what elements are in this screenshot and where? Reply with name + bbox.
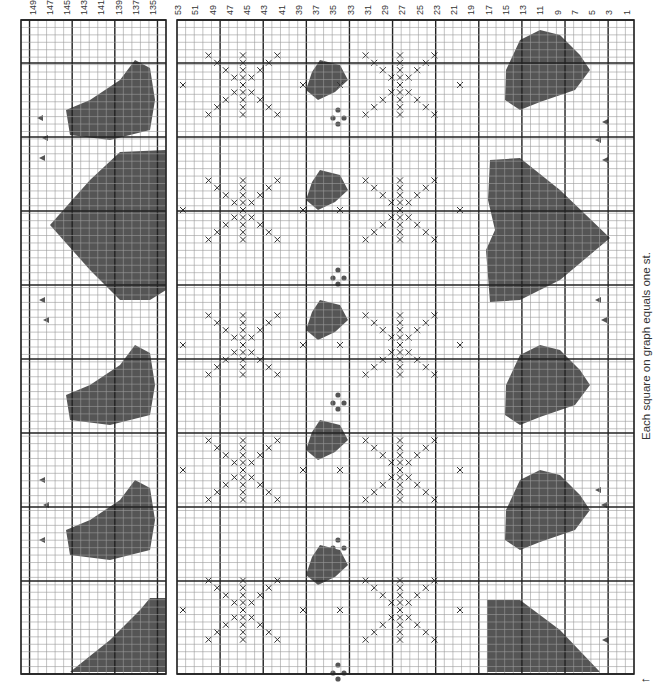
column-label: 13	[518, 5, 528, 15]
column-label: 3	[604, 10, 614, 15]
column-label: 45	[242, 5, 252, 15]
column-label: 143	[79, 0, 89, 15]
column-label: 33	[346, 5, 356, 15]
column-label: 135	[148, 0, 158, 15]
column-label: 15	[501, 5, 511, 15]
column-label: 31	[363, 5, 373, 15]
column-label: 27	[397, 5, 407, 15]
column-label: 137	[131, 0, 141, 15]
start-arrow-icon: ←	[640, 673, 652, 683]
column-label: 53	[173, 5, 183, 15]
column-labels: 1491471451431411391371355351494745434139…	[28, 0, 632, 15]
column-label: 5	[587, 10, 597, 15]
column-label: 51	[190, 5, 200, 15]
column-label: 37	[311, 5, 321, 15]
column-label: 141	[96, 0, 106, 15]
column-label: 21	[449, 5, 459, 15]
column-label: 49	[208, 5, 218, 15]
column-label: 17	[484, 5, 494, 15]
column-label: 147	[45, 0, 55, 15]
column-label: 145	[62, 0, 72, 15]
column-label: 35	[328, 5, 338, 15]
column-label: 41	[277, 5, 287, 15]
left-panel-motifs	[50, 60, 166, 672]
column-label: 47	[225, 5, 235, 15]
column-label: 39	[294, 5, 304, 15]
column-label: 23	[432, 5, 442, 15]
column-label: 43	[259, 5, 269, 15]
column-label: 11	[535, 6, 545, 15]
column-label: 1	[622, 10, 632, 15]
chart-caption: Each square on graph equals one st.	[640, 252, 652, 440]
column-label: 25	[415, 5, 425, 15]
column-label: 9	[553, 10, 563, 15]
column-label: 149	[28, 0, 38, 15]
knitting-chart: 1491471451431411391371355351494745434139…	[0, 0, 661, 689]
column-label: 7	[570, 10, 580, 15]
column-label: 19	[466, 5, 476, 15]
column-label: 139	[114, 0, 124, 15]
column-label: 29	[380, 5, 390, 15]
